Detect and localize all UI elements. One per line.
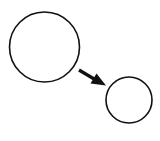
small-circle <box>106 77 152 123</box>
diagram-canvas <box>0 0 160 141</box>
large-circle <box>10 12 80 82</box>
arrow-icon <box>79 70 106 86</box>
